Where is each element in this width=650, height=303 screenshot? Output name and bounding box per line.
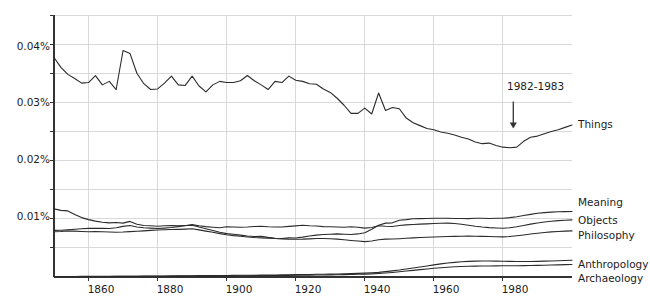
x-tick-label-1860: 1860 [76,283,126,295]
y-tick-label-3: 0.01% [6,210,50,222]
x-tick-label-1940: 1940 [352,283,402,295]
series-label-objects: Objects [578,214,618,226]
y-tick-label-1: 0.03% [6,96,50,108]
axis-lines [54,15,572,277]
x-tick-label-1920: 1920 [283,283,333,295]
gridlines [54,15,572,248]
axis-ticks [50,15,503,281]
chart-plot-area [0,0,650,303]
series-label-meaning: Meaning [578,196,623,208]
x-tick-label-1980: 1980 [490,283,540,295]
ngram-chart: 0.04% 0.03% 0.02% 0.01% 1860 1880 1900 1… [0,0,650,303]
annotation-label-1982-1983: 1982-1983 [507,80,564,92]
series-label-anthropology: Anthropology [578,258,648,270]
annotation-arrow [510,101,517,128]
series-label-things: Things [578,118,613,130]
x-tick-label-1900: 1900 [214,283,264,295]
series-label-philosophy: Philosophy [578,229,635,241]
series-lines [54,51,572,277]
x-tick-label-1960: 1960 [421,283,471,295]
y-tick-label-2: 0.02% [6,153,50,165]
y-tick-label-0: 0.04% [6,40,50,52]
series-label-archaeology: Archaeology [578,272,643,284]
x-tick-label-1880: 1880 [145,283,195,295]
